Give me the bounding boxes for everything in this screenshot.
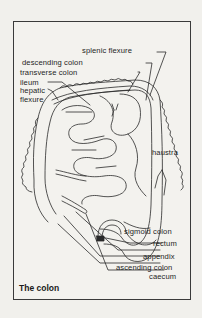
label-rectum: rectum [153, 239, 177, 248]
label-sigmoid-colon: sigmoid colon [124, 227, 172, 236]
label-transverse-colon: transverse colon [20, 68, 77, 77]
label-appendix: appendix [143, 252, 175, 261]
figure-title: The colon [19, 283, 59, 293]
label-haustra: haustra [152, 148, 178, 157]
label-descending-colon: descending colon [22, 58, 83, 67]
label-splenic-flexure: splenic flexure [82, 46, 132, 55]
small-intestine-coils [62, 106, 126, 205]
label-hepatic-flexure-line2: flexure [20, 95, 44, 104]
label-caecum: caecum [149, 272, 176, 281]
label-hepatic-flexure-line1: hepatic [20, 86, 45, 95]
label-ascending-colon: ascending colon [116, 263, 172, 272]
